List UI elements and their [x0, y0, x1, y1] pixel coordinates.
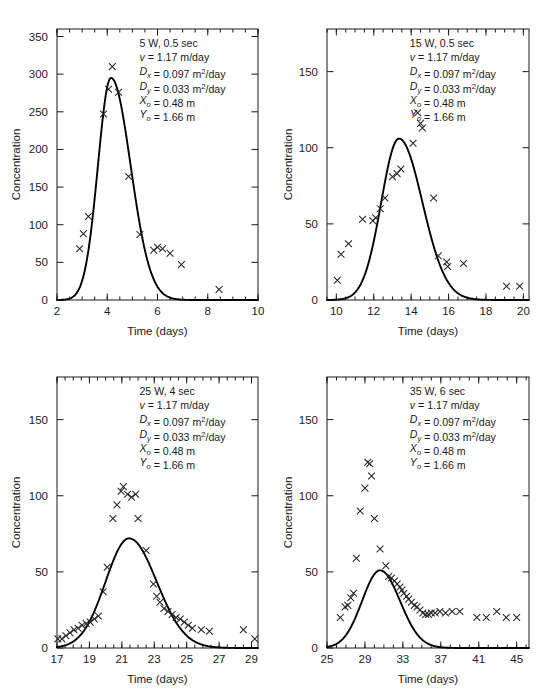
data-point-marker	[110, 515, 117, 522]
data-point-marker	[167, 250, 174, 257]
annotation-line: Yo = 1.66 m	[139, 456, 195, 471]
data-point-marker	[76, 245, 83, 252]
data-point-marker	[143, 547, 150, 554]
data-point-marker	[189, 625, 196, 632]
data-point-marker	[178, 261, 185, 268]
x-tick-label: 23	[148, 653, 161, 665]
data-point-marker	[357, 508, 364, 515]
data-point-marker	[95, 613, 102, 620]
data-point-marker	[157, 599, 164, 606]
data-point-marker	[125, 173, 132, 180]
data-point-marker	[334, 277, 341, 284]
data-point-marker	[443, 259, 450, 266]
y-tick-label: 0	[42, 642, 48, 654]
x-tick-label: 6	[154, 305, 160, 317]
data-point-marker	[410, 140, 417, 147]
data-point-marker	[114, 501, 121, 508]
data-point-marker	[128, 494, 135, 501]
data-point-marker	[198, 626, 205, 633]
y-tick-label: 100	[299, 490, 318, 502]
data-point-marker	[428, 610, 435, 617]
annotation-line: Xo = 0.48 m	[409, 442, 466, 457]
y-tick-label: 50	[35, 256, 48, 268]
data-point-marker	[394, 170, 401, 177]
x-tick-label: 33	[396, 653, 409, 665]
y-tick-label: 100	[299, 142, 318, 154]
data-point-marker	[337, 614, 344, 621]
data-point-marker	[513, 614, 520, 621]
y-tick-label: 50	[305, 218, 318, 230]
x-tick-label: 8	[205, 305, 211, 317]
data-point-marker	[503, 614, 510, 621]
chart-panel-panel-d: 252933374145050100150Time (days)Concentr…	[272, 348, 543, 695]
chart-panel-panel-a: 246810050100150200250300350Time (days)Co…	[0, 0, 272, 348]
data-point-marker	[362, 485, 369, 492]
x-tick-label: 21	[115, 653, 128, 665]
y-tick-label: 100	[29, 219, 48, 231]
data-point-marker	[473, 614, 480, 621]
data-point-marker	[397, 166, 404, 173]
annotation-line: Dy = 0.033 m2/day	[139, 428, 226, 443]
annotation-line: Xo = 0.48 m	[409, 94, 466, 109]
data-point-marker	[104, 564, 111, 571]
annotation-line: Dx = 0.097 m2/day	[139, 65, 226, 80]
x-axis-title: Time (days)	[127, 325, 187, 337]
data-point-marker	[58, 635, 65, 642]
y-tick-label: 300	[29, 68, 48, 80]
annotation-line: v = 1.17 m/day	[139, 51, 209, 63]
data-point-marker	[377, 546, 384, 553]
annotation-header: 35 W, 6 sec	[410, 385, 466, 397]
data-point-marker	[216, 286, 223, 293]
annotation-line: Yo = 1.66 m	[139, 108, 195, 123]
annotation-line: Dy = 0.033 m2/day	[139, 80, 226, 95]
data-point-marker	[460, 260, 467, 267]
y-tick-label: 200	[29, 143, 48, 155]
y-axis-title: Concentration	[10, 129, 22, 201]
y-tick-label: 50	[35, 566, 48, 578]
y-tick-label: 100	[29, 490, 48, 502]
x-tick-label: 27	[213, 653, 226, 665]
annotation-line: Dx = 0.097 m2/day	[139, 413, 226, 428]
annotation-line: v = 1.17 m/day	[410, 51, 480, 63]
data-point-marker	[135, 515, 142, 522]
data-point-marker	[483, 614, 490, 621]
data-point-marker	[432, 610, 439, 617]
x-tick-label: 12	[367, 305, 380, 317]
annotation-line: Xo = 0.48 m	[138, 442, 195, 457]
data-point-marker	[132, 491, 139, 498]
data-point-marker	[353, 555, 360, 562]
y-tick-label: 0	[312, 294, 318, 306]
data-point-marker	[150, 247, 157, 254]
x-tick-label: 29	[359, 653, 372, 665]
x-axis-title: Time (days)	[398, 673, 458, 685]
data-point-marker	[67, 629, 74, 636]
chart-panel-panel-b: 101214161820050100150Time (days)Concentr…	[272, 0, 543, 348]
x-tick-label: 25	[321, 653, 334, 665]
data-point-marker	[124, 491, 131, 498]
annotation-line: v = 1.17 m/day	[410, 399, 480, 411]
data-point-marker	[338, 251, 345, 258]
data-point-marker	[430, 195, 437, 202]
data-point-marker	[449, 608, 456, 615]
annotation-line: Xo = 0.48 m	[138, 94, 195, 109]
data-point-marker	[389, 173, 396, 180]
data-point-marker	[154, 244, 161, 251]
x-axis-title: Time (days)	[398, 325, 458, 337]
x-tick-label: 2	[54, 305, 60, 317]
data-point-marker	[503, 283, 510, 290]
data-point-marker	[150, 581, 157, 588]
data-point-marker	[345, 240, 352, 247]
data-point-marker	[91, 616, 98, 623]
x-tick-label: 45	[510, 653, 523, 665]
data-point-marker	[359, 216, 366, 223]
data-point-marker	[442, 610, 449, 617]
data-point-marker	[444, 263, 451, 270]
x-tick-label: 20	[517, 305, 530, 317]
annotation-line: Yo = 1.66 m	[410, 108, 466, 123]
x-tick-label: 14	[405, 305, 418, 317]
observed-data-markers	[76, 63, 222, 293]
x-tick-label: 17	[51, 653, 64, 665]
y-axis-title: Concentration	[282, 129, 294, 201]
x-tick-label: 16	[442, 305, 455, 317]
data-point-marker	[185, 622, 192, 629]
